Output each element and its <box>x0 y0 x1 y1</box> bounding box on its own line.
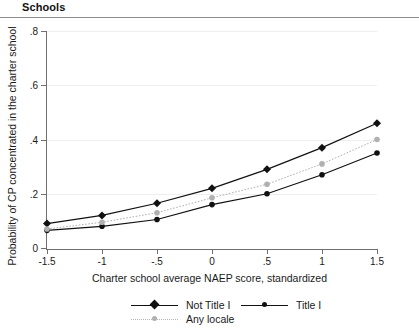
data-point-marker <box>319 161 325 167</box>
series-not-title-i <box>43 119 381 227</box>
data-point-marker <box>153 199 161 207</box>
data-point-marker <box>99 219 105 225</box>
data-point-marker <box>374 137 380 143</box>
chart-page: Schools 0.2.4.6.8 -1.5-1-.50.511.5 Chart… <box>0 0 419 328</box>
circle-marker-icon <box>262 302 267 307</box>
data-point-marker <box>209 202 215 208</box>
data-point-marker <box>263 165 271 173</box>
data-point-marker <box>98 211 106 219</box>
data-point-marker <box>208 184 216 192</box>
y-axis-title: Probability of CP concentrated in the ch… <box>6 21 18 271</box>
x-axis-title: Charter school average NAEP score, stand… <box>0 272 419 284</box>
series-line <box>47 140 377 230</box>
data-point-marker <box>373 119 381 127</box>
legend-label-any-locale: Any locale <box>186 312 234 326</box>
legend-label-not-title-i: Not Title I <box>186 298 230 312</box>
data-point-marker <box>44 226 50 232</box>
data-point-marker <box>154 210 160 216</box>
data-point-marker <box>318 144 326 152</box>
chart-legend: Not Title I Title I Any locale <box>0 296 419 328</box>
data-point-marker <box>209 195 215 201</box>
series-any-locale <box>44 137 380 232</box>
diamond-marker-icon <box>150 300 160 310</box>
circle-marker-gray-icon <box>152 316 157 321</box>
data-point-marker <box>319 172 325 178</box>
data-point-marker <box>154 217 160 223</box>
data-point-marker <box>374 150 380 156</box>
legend-label-title-i: Title I <box>296 298 321 312</box>
series-line <box>47 123 377 223</box>
data-point-marker <box>264 191 270 197</box>
data-point-marker <box>264 181 270 187</box>
